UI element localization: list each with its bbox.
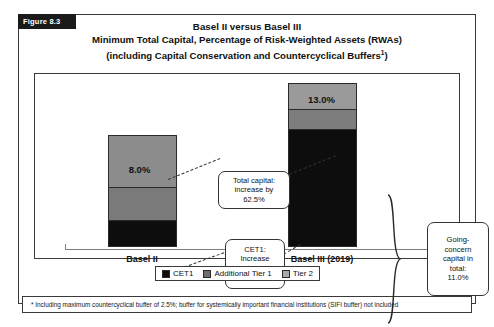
legend-swatch-cet1-icon xyxy=(162,270,170,278)
callout-going-concern-line-4: total: xyxy=(450,264,466,274)
title-line-3: (including Capital Conservation and Coun… xyxy=(22,46,472,62)
title-line-1: Basel II versus Basel III xyxy=(22,20,472,33)
callout-total-capital-line-3: 62.5% xyxy=(243,195,265,205)
figure-footnote: * Including maximum countercyclical buff… xyxy=(22,296,472,313)
x-axis-tick-left xyxy=(65,244,66,249)
legend-swatch-additional-tier-1-icon xyxy=(203,270,211,278)
callout-going-concern-line-1: Going- xyxy=(447,235,470,245)
title-line-3-text: (including Capital Conservation and Coun… xyxy=(106,51,381,62)
bar-basel-iii[interactable] xyxy=(288,83,357,247)
callout-total-capital-line-1: Total capital: xyxy=(233,176,275,186)
legend-item-additional-tier-1[interactable]: Additional Tier 1 xyxy=(203,269,271,278)
chart-legend: CET1 Additional Tier 1 Tier 2 xyxy=(155,266,320,281)
going-concern-brace-icon xyxy=(387,194,401,324)
legend-label-tier-2: Tier 2 xyxy=(293,269,313,278)
figure-footnote-text: * Including maximum countercyclical buff… xyxy=(31,301,398,308)
legend-label-additional-tier-1: Additional Tier 1 xyxy=(214,269,271,278)
bar-segment-cet1 xyxy=(288,129,357,247)
callout-going-concern-line-5: 11.0% xyxy=(448,273,469,283)
bar-basel-ii[interactable] xyxy=(108,135,177,247)
callout-going-concern-line-3: capital in xyxy=(443,254,473,264)
x-axis-label-basel-ii: Basel II xyxy=(82,254,202,264)
title-line-3-close: ) xyxy=(384,51,387,62)
legend-item-tier-2[interactable]: Tier 2 xyxy=(282,269,313,278)
callout-cet1-increase: CET1: Increase by factor 4.75 xyxy=(225,239,285,289)
bar-value-basel-iii: 13.0% xyxy=(287,94,356,105)
bar-segment-additional-tier-1 xyxy=(288,109,357,129)
legend-label-cet1: CET1 xyxy=(173,269,193,278)
callout-cet1-line-1: CET1: xyxy=(244,245,266,255)
figure-number-label: Figure 8.3 xyxy=(23,17,60,26)
figure-screenshot: Figure 8.3 Basel II versus Basel III Min… xyxy=(0,0,494,327)
plot-area: 8.0% 13.0% Basel II Basel III (2019) Tot… xyxy=(34,73,460,259)
bar-segment-tier-2 xyxy=(108,135,177,187)
callout-going-concern-capital: Going- concern capital in total: 11.0% xyxy=(427,222,489,296)
callout-total-capital: Total capital: increase by 62.5% xyxy=(218,171,290,209)
bar-segment-cet1 xyxy=(108,220,177,247)
legend-item-cet1[interactable]: CET1 xyxy=(162,269,193,278)
bar-segment-additional-tier-1 xyxy=(108,187,177,220)
legend-swatch-tier-2-icon xyxy=(282,270,290,278)
bar-value-basel-ii: 8.0% xyxy=(105,164,174,175)
title-line-2: Minimum Total Capital, Percentage of Ris… xyxy=(22,33,472,46)
callout-total-capital-line-2: increase by xyxy=(235,185,274,195)
callout-cet1-line-2: Increase xyxy=(240,254,269,264)
figure-number-tag: Figure 8.3 xyxy=(18,14,76,29)
figure-title: Basel II versus Basel III Minimum Total … xyxy=(22,20,472,63)
callout-going-concern-line-2: concern xyxy=(444,245,471,255)
